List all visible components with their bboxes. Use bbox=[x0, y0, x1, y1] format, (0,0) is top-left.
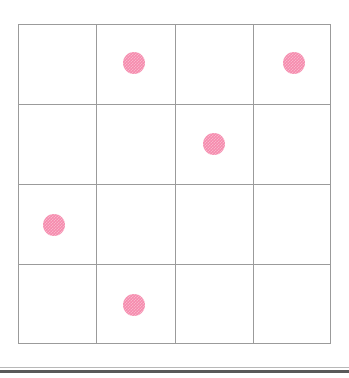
grid-line-horizontal-0 bbox=[18, 24, 331, 25]
dot-r1c4[interactable] bbox=[283, 52, 305, 74]
grid-line-horizontal-2 bbox=[18, 184, 331, 185]
grid bbox=[18, 24, 331, 344]
dot-r2c3[interactable] bbox=[203, 133, 225, 155]
bottom-soft-rule bbox=[0, 367, 349, 368]
grid-line-horizontal-3 bbox=[18, 264, 331, 265]
grid-line-horizontal-1 bbox=[18, 104, 331, 105]
dot-r1c2[interactable] bbox=[123, 52, 145, 74]
dot-r4c2[interactable] bbox=[123, 294, 145, 316]
grid-line-horizontal-4 bbox=[18, 343, 331, 344]
canvas bbox=[0, 0, 349, 378]
bottom-rule bbox=[0, 370, 349, 373]
dot-r3c1[interactable] bbox=[43, 214, 65, 236]
